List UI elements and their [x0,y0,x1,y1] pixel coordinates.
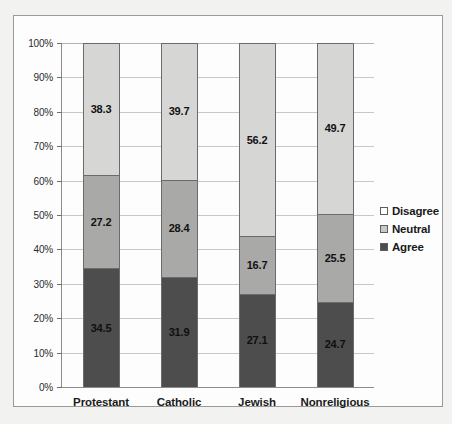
y-axis-tick [57,318,62,319]
y-axis-tick [57,249,62,250]
y-axis-tick [57,146,62,147]
data-label: 34.5 [91,323,112,334]
legend-label: Neutral [392,223,430,235]
bar-segment-disagree[interactable]: 39.7 [161,43,198,180]
data-label: 16.7 [247,260,268,271]
y-axis-tick-label: 40% [34,244,53,255]
y-axis-tick-label: 50% [34,210,53,221]
y-axis-tick [57,215,62,216]
chart-legend: DisagreeNeutralAgree [380,203,452,257]
bar-segment-neutral[interactable]: 28.4 [161,180,198,278]
y-axis-tick-label: 0% [39,382,53,393]
data-label: 24.7 [325,339,346,350]
y-axis-tick-label: 100% [28,38,53,49]
plot-area: 100%90%80%70%60%50%40%30%20%10%0% 38.327… [61,43,374,388]
bar-nonreligious[interactable]: 49.725.524.7Nonreligious [317,43,354,387]
x-axis-category-label: Nonreligious [290,396,380,408]
x-axis-category-label: Protestant [56,396,146,408]
bar-protestant[interactable]: 38.327.234.5Protestant [83,43,120,387]
legend-label: Disagree [392,205,439,217]
y-axis-tick-label: 70% [34,141,53,152]
chart-frame: 100%90%80%70%60%50%40%30%20%10%0% 38.327… [13,15,443,407]
y-axis-tick [57,387,62,388]
legend-item-neutral[interactable]: Neutral [380,221,452,237]
legend-swatch-icon [380,225,388,233]
data-label: 56.2 [247,135,268,146]
legend-label: Agree [392,241,424,253]
bar-segment-neutral[interactable]: 25.5 [317,214,354,302]
data-label: 39.7 [169,106,190,117]
data-label: 38.3 [91,104,112,115]
y-axis-tick [57,43,62,44]
bar-segment-disagree[interactable]: 49.7 [317,43,354,214]
y-axis-tick-label: 80% [34,106,53,117]
y-axis-tick-label: 20% [34,313,53,324]
y-axis-tick-label: 60% [34,175,53,186]
scanned-page-background: 100%90%80%70%60%50%40%30%20%10%0% 38.327… [0,0,452,424]
y-axis-tick [57,77,62,78]
y-axis-tick-label: 30% [34,278,53,289]
y-axis-tick-label: 90% [34,72,53,83]
data-label: 49.7 [325,123,346,134]
data-label: 27.1 [247,335,268,346]
bar-segment-agree[interactable]: 34.5 [83,268,120,387]
bar-segment-disagree[interactable]: 56.2 [239,43,276,236]
bar-segment-agree[interactable]: 27.1 [239,294,276,387]
bar-segment-agree[interactable]: 24.7 [317,302,354,387]
legend-item-disagree[interactable]: Disagree [380,203,452,219]
bar-catholic[interactable]: 39.728.431.9Catholic [161,43,198,387]
y-axis-tick [57,181,62,182]
bar-segment-neutral[interactable]: 27.2 [83,175,120,269]
y-axis-tick [57,353,62,354]
legend-swatch-icon [380,243,388,251]
legend-item-agree[interactable]: Agree [380,239,452,255]
data-label: 27.2 [91,217,112,228]
bar-jewish[interactable]: 56.216.727.1Jewish [239,43,276,387]
data-label: 25.5 [325,253,346,264]
data-label: 31.9 [169,327,190,338]
y-axis-tick [57,284,62,285]
bar-segment-disagree[interactable]: 38.3 [83,43,120,175]
data-label: 28.4 [169,223,190,234]
x-axis-category-label: Catholic [134,396,224,408]
bar-segment-agree[interactable]: 31.9 [161,277,198,387]
y-axis-tick [57,112,62,113]
x-axis-category-label: Jewish [212,396,302,408]
y-axis-tick-label: 10% [34,347,53,358]
legend-swatch-icon [380,207,388,215]
bar-segment-neutral[interactable]: 16.7 [239,236,276,293]
